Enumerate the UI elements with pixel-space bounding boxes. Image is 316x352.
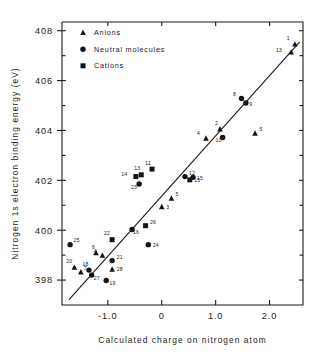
- data-point-label: 14: [121, 171, 127, 177]
- data-point-label: 18: [82, 261, 88, 267]
- legend-marker-circle: [80, 47, 85, 52]
- data-point-circle: [86, 267, 91, 272]
- data-point-triangle: [100, 252, 106, 257]
- data-point-triangle: [169, 195, 175, 200]
- legend-marker-square: [81, 63, 86, 68]
- y-tick-label: 406: [35, 76, 53, 86]
- data-point-circle: [67, 242, 72, 247]
- data-point-label: 23: [131, 184, 137, 190]
- data-point-circle: [109, 258, 114, 263]
- data-point-label: 22: [104, 230, 110, 236]
- data-point-label: 12: [189, 170, 195, 176]
- x-tick-label: 2.0: [262, 311, 277, 321]
- x-axis-title: Calculated charge on nitrogen atom: [98, 335, 266, 345]
- scatter-plot: 398400402404406408-1.001.02.011324553642…: [0, 0, 316, 352]
- data-point-label: 25: [74, 237, 80, 243]
- data-point-circle: [136, 181, 141, 186]
- data-point-circle: [182, 174, 187, 179]
- data-point-label: 1: [287, 35, 290, 41]
- data-point-square: [110, 237, 115, 242]
- x-tick-label: 1.0: [208, 311, 223, 321]
- legend-label: Cations: [94, 61, 124, 70]
- data-point-square: [143, 223, 148, 228]
- data-point-square: [139, 172, 144, 177]
- data-point-triangle: [252, 130, 258, 135]
- data-point-circle: [104, 278, 109, 283]
- y-tick-label: 404: [35, 126, 53, 136]
- data-point-circle: [243, 100, 248, 105]
- y-tick-label: 400: [35, 226, 53, 236]
- data-point-label: 13: [134, 165, 140, 171]
- data-point-label: 10: [216, 137, 222, 143]
- data-point-label: 20: [66, 258, 72, 264]
- x-tick-label: -1.0: [98, 311, 117, 321]
- data-point-label: 15: [194, 177, 200, 183]
- regression-line: [69, 42, 300, 300]
- data-point-label: 28: [117, 266, 123, 272]
- data-point-circle: [146, 242, 151, 247]
- figure-root: 398400402404406408-1.001.02.011324553642…: [0, 0, 316, 352]
- data-point-label: 4: [197, 130, 200, 136]
- data-point-square: [187, 177, 192, 182]
- data-point-triangle: [203, 135, 209, 140]
- data-point-label: 5: [260, 126, 263, 132]
- data-point-triangle: [159, 204, 165, 209]
- data-point-label: 11: [145, 160, 151, 166]
- legend-marker-triangle: [80, 30, 86, 35]
- data-point-label: 3: [166, 204, 169, 210]
- data-point-triangle: [292, 41, 298, 46]
- y-axis-title: Nitrogen 1s electron binding energy (eV): [10, 67, 20, 259]
- data-point-label: 9: [249, 101, 252, 107]
- y-tick-label: 408: [35, 26, 53, 36]
- y-tick-label: 398: [35, 275, 53, 285]
- data-point-label: 27: [94, 275, 100, 281]
- data-point-square: [150, 167, 155, 172]
- data-point-label: 26: [150, 219, 156, 225]
- data-point-label: 8: [233, 91, 236, 97]
- data-point-label: 13: [276, 47, 282, 53]
- data-point-triangle: [109, 266, 115, 271]
- data-point-label: 2: [215, 120, 218, 126]
- legend-label: Anions: [94, 28, 121, 37]
- data-point-label: 4: [94, 248, 97, 254]
- data-point-circle: [239, 96, 244, 101]
- data-point-square: [133, 174, 138, 179]
- y-tick-label: 402: [35, 176, 53, 186]
- data-point-label: 16: [133, 229, 139, 235]
- data-point-label: 5: [175, 191, 178, 197]
- data-point-label: 19: [109, 280, 115, 286]
- x-tick-label: 0: [159, 311, 165, 321]
- data-point-label: 24: [153, 242, 159, 248]
- data-point-label: 21: [117, 254, 123, 260]
- legend-label: Neutral molecules: [94, 45, 165, 54]
- data-point-triangle: [72, 264, 78, 269]
